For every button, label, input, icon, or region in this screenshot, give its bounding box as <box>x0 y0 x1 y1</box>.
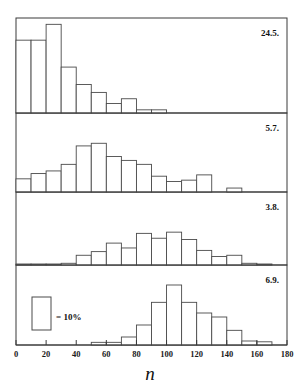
histogram-bar <box>212 317 227 345</box>
histogram-bar <box>242 341 257 345</box>
panel-date-label: 6.9. <box>266 275 280 285</box>
histogram-bar <box>121 337 136 345</box>
x-tick-label: 60 <box>102 349 111 359</box>
x-tick-label: 80 <box>132 349 141 359</box>
legend-label: = 10% <box>56 312 81 322</box>
histogram-bar <box>152 302 167 345</box>
histogram-bar <box>136 325 151 345</box>
histogram-bar <box>167 232 182 265</box>
histogram-bar <box>227 330 242 345</box>
histogram-bar <box>182 180 197 192</box>
x-tick-label: 40 <box>72 349 81 359</box>
histogram-bar <box>197 175 212 192</box>
histogram-bar <box>46 24 61 113</box>
histogram-bar <box>167 285 182 345</box>
histogram-bar <box>16 179 31 192</box>
histogram-bar <box>136 164 151 192</box>
histogram-bar <box>227 188 242 192</box>
histogram-svg: 24.5.5.7.3.8.6.9. 0204060801001201401601… <box>0 0 305 385</box>
histogram-bar <box>212 256 227 265</box>
histogram-bar <box>197 313 212 345</box>
histogram-bar <box>182 302 197 345</box>
histogram-bar <box>31 40 46 113</box>
panel-date-label: 5.7. <box>266 123 280 133</box>
histogram-bar <box>106 156 121 192</box>
x-tick-label: 100 <box>160 349 173 359</box>
histogram-bar <box>76 255 91 265</box>
histogram-bar <box>46 171 61 192</box>
x-tick-label: 160 <box>251 349 264 359</box>
histogram-bar <box>16 40 31 113</box>
histogram-figure: 24.5.5.7.3.8.6.9. 0204060801001201401601… <box>0 0 305 385</box>
histogram-bar <box>182 239 197 265</box>
legend: = 10% <box>32 297 81 330</box>
histogram-bar <box>121 99 136 113</box>
histogram-bar <box>76 85 91 114</box>
histogram-bar <box>106 243 121 265</box>
histogram-bar <box>31 174 46 192</box>
histogram-bar <box>121 160 136 192</box>
histogram-bar <box>106 104 121 114</box>
panel-date-label: 3.8. <box>266 202 280 212</box>
histogram-bar <box>61 67 76 113</box>
histogram-bar <box>197 250 212 265</box>
histogram-bar <box>152 176 167 192</box>
panel-date-label: 24.5. <box>261 28 279 38</box>
histogram-bar <box>91 92 106 113</box>
legend-swatch <box>32 297 51 330</box>
histogram-bar <box>76 146 91 192</box>
histogram-bar <box>91 252 106 265</box>
x-tick-label: 0 <box>14 349 18 359</box>
x-tick-label: 20 <box>42 349 51 359</box>
histogram-bar <box>91 143 106 192</box>
histogram-bar <box>167 181 182 192</box>
histogram-bar <box>152 238 167 265</box>
x-tick-label: 140 <box>220 349 233 359</box>
x-axis-symbol: n <box>145 363 155 384</box>
panel-group: 24.5.5.7.3.8.6.9. <box>16 18 287 345</box>
x-tick-label: 120 <box>190 349 203 359</box>
histogram-bar <box>227 255 242 265</box>
histogram-bar <box>61 164 76 192</box>
histogram-bar <box>136 233 151 265</box>
x-tick-label: 180 <box>281 349 294 359</box>
histogram-bar <box>121 248 136 265</box>
